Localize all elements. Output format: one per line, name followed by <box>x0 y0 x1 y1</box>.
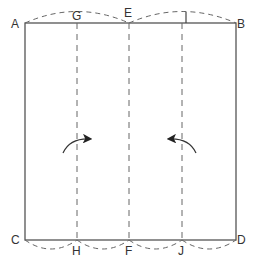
label-h: H <box>72 244 81 258</box>
label-c: C <box>11 233 20 247</box>
label-j: J <box>178 244 184 258</box>
bottom-arc-1 <box>25 240 77 249</box>
label-f: F <box>125 244 132 258</box>
label-d: D <box>237 233 246 247</box>
paper-rectangle <box>25 23 236 240</box>
bottom-arc-3 <box>129 240 182 249</box>
top-arc-right <box>129 12 236 24</box>
fold-diagram: A B C D G E I H F J <box>0 0 258 260</box>
bottom-arc-2 <box>77 240 129 249</box>
label-e: E <box>124 6 132 20</box>
bottom-arc-4 <box>182 240 236 249</box>
label-g: G <box>72 9 81 23</box>
label-a: A <box>11 17 19 31</box>
label-b: B <box>237 17 245 31</box>
